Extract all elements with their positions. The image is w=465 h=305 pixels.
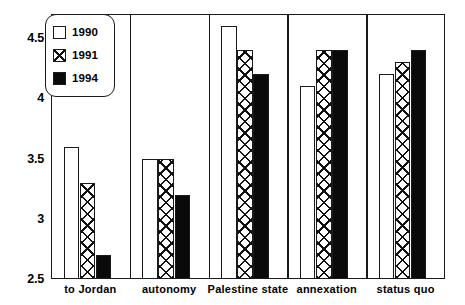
bar-1994-Palestine-state: [253, 74, 269, 279]
x-category-label: to Jordan: [64, 283, 116, 295]
bar-group: [366, 14, 445, 279]
bar-group: [130, 14, 209, 279]
legend-item: 1994: [53, 67, 114, 90]
legend-item-label: 1991: [72, 50, 98, 62]
y-tick-label: 3.5: [27, 152, 44, 166]
legend-item-label: 1994: [72, 73, 98, 85]
y-tick-label: 3: [37, 212, 44, 226]
bar-1990-autonomy: [142, 159, 158, 279]
y-tick-label: 4.5: [27, 31, 44, 45]
legend-item-label: 1990: [72, 27, 98, 39]
bar-1994-autonomy: [175, 195, 191, 279]
legend-item: 1991: [53, 44, 114, 67]
y-tick-label: 2.5: [27, 272, 44, 286]
bar-1991-Palestine-state: [237, 50, 253, 279]
bar-1991-annexation: [316, 50, 332, 279]
bar-1994-annexation: [332, 50, 348, 279]
bar-1990-status-quo: [379, 74, 395, 279]
bar-1990-annexation: [300, 86, 316, 279]
black-square-swatch: [53, 72, 66, 85]
bar-group: [209, 14, 288, 279]
bar-1994-status-quo: [411, 50, 427, 279]
bar-1990-Palestine-state: [221, 26, 237, 279]
grouped-bar-chart: 2.533.544.5 to JordanautonomyPalestine s…: [0, 0, 465, 305]
y-axis: 2.533.544.5: [0, 0, 48, 305]
white-square-swatch: [53, 26, 66, 39]
bar-1991-autonomy: [158, 159, 174, 279]
bar-1991-to-Jordan: [80, 183, 96, 279]
x-category-label: Palestine state: [208, 283, 289, 295]
bar-1991-status-quo: [395, 62, 411, 279]
bar-1990-to-Jordan: [64, 147, 80, 280]
bar-group: [287, 14, 366, 279]
x-category-label: autonomy: [142, 283, 197, 295]
cross-hatch-square-swatch: [53, 49, 66, 62]
y-tick-label: 4: [37, 91, 44, 105]
x-category-label: annexation: [297, 283, 358, 295]
x-category-label: status quo: [377, 283, 435, 295]
bar-1994-to-Jordan: [96, 255, 112, 279]
chart-legend: 1990 1991 1994: [45, 14, 115, 97]
x-axis: to JordanautonomyPalestine stateannexati…: [51, 283, 445, 305]
legend-item: 1990: [53, 21, 114, 44]
